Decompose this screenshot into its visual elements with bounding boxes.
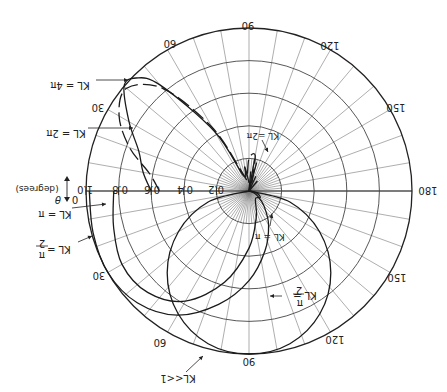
pattern-curves — [89, 78, 331, 354]
angle-label-60-bottom: 60 — [154, 337, 167, 348]
angle-label-180: 180 — [418, 185, 437, 196]
annotation-kl-pi2-left: KL = — [47, 244, 71, 255]
angle-label-90-bottom: 90 — [243, 356, 256, 367]
annotation-kl-pi2-left-num: π — [39, 250, 45, 261]
annotation-kl-pi-left: KL = π — [39, 209, 72, 220]
radial-label-0.6: 0.6 — [144, 184, 160, 195]
annotation-kl-4pi: KL = 4π — [50, 80, 89, 91]
annotation-kl-2pi-left: KL = 2π — [46, 128, 85, 139]
theta-arrow-head-down — [64, 197, 70, 202]
angle-label-90-top: 90 — [242, 20, 255, 31]
degrees-label: (degrees) — [15, 184, 58, 194]
radial-label-0.2: 0.2 — [208, 184, 224, 195]
grid-ray — [124, 191, 249, 296]
curve-kl-2 — [89, 191, 268, 315]
angle-label-150-bottom: 150 — [387, 272, 406, 283]
theta-arrow-head-up — [64, 176, 70, 181]
zero-angle-label: 0 — [72, 194, 78, 205]
curve-kl-2- — [119, 84, 255, 191]
angle-label-60-top: 60 — [164, 38, 177, 49]
arrow-head-icon — [270, 294, 274, 298]
grid-ray — [124, 86, 249, 191]
annotation-leaders — [72, 78, 282, 372]
theta-label: θ — [55, 194, 61, 205]
angle-label-150-top: 150 — [386, 102, 405, 113]
annotation-kl-2pi-center: KL =2π — [246, 131, 279, 141]
radial-label-1.0: 1.0 — [77, 184, 93, 195]
angle-label-30-top: 30 — [92, 102, 105, 113]
angle-label-120-bottom: 120 — [325, 334, 344, 345]
annotation-kl-pi2-right-num: π — [297, 298, 303, 309]
polar-radiation-chart: 90 60 120 150 30 180 30 60 90 120 150 0.… — [0, 0, 447, 392]
grid-ray — [249, 191, 374, 296]
radial-label-0.8: 0.8 — [112, 184, 128, 195]
curve-kl- — [113, 191, 260, 301]
annotation-kl-pi-center: KL = π — [255, 232, 285, 242]
radial-label-0.4: 0.4 — [177, 184, 193, 195]
grid-ray — [249, 66, 354, 191]
annotation-kl-pi2-left-den: 2 — [39, 238, 45, 249]
angle-label-120-top: 120 — [320, 40, 339, 51]
angle-label-30-bottom: 30 — [93, 270, 106, 281]
annotation-kl-much-less-1: KL<<1 — [160, 373, 195, 384]
annotation-kl-pi2-right-den: 2 — [296, 285, 302, 296]
